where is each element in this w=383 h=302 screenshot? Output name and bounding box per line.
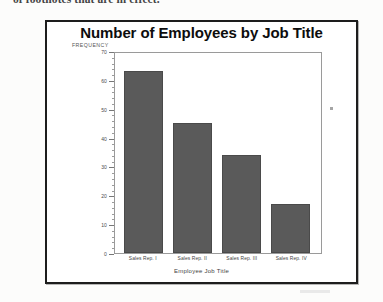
y-axis-label: FREQUENCY [72, 42, 109, 48]
chart-figure-frame: Number of Employees by Job Title FREQUEN… [45, 20, 358, 284]
x-tick-label: Sales Rep. II [168, 256, 218, 261]
bar-slot [168, 53, 217, 253]
plot-area [114, 52, 322, 254]
y-tick-label: 70 [101, 49, 107, 55]
x-axis-label: Employee Job Title [47, 268, 356, 274]
x-tick-label: Sales Rep. I [118, 256, 168, 261]
y-tick-label: 20 [101, 193, 107, 199]
y-tick-label: 50 [101, 107, 107, 113]
bar-series [115, 53, 321, 253]
bar-slot [217, 53, 266, 253]
bar [222, 155, 260, 253]
y-tick-label: 40 [101, 136, 107, 142]
scanned-page: of footnotes that are in effect. Number … [0, 0, 383, 302]
cut-off-body-text: of footnotes that are in effect. [13, 0, 253, 6]
scan-speck-artifact [330, 107, 333, 110]
x-tick-label: Sales Rep. IV [267, 256, 317, 261]
bar [124, 71, 162, 253]
x-tick-label: Sales Rep. III [217, 256, 267, 261]
y-tick-major [109, 254, 114, 255]
bar [173, 123, 211, 253]
y-tick-label: 10 [101, 222, 107, 228]
bar [271, 204, 309, 253]
y-tick-label: 60 [101, 78, 107, 84]
chart-title: Number of Employees by Job Title [47, 24, 356, 41]
bar-slot [119, 53, 168, 253]
bar-slot [266, 53, 315, 253]
y-tick-label: 30 [101, 164, 107, 170]
y-tick-label: 0 [104, 251, 107, 257]
y-axis-ticks: 010203040506070 [47, 52, 114, 254]
scan-smudge-artifact [300, 290, 330, 293]
x-axis-tick-labels: Sales Rep. ISales Rep. IISales Rep. IIIS… [114, 256, 322, 261]
